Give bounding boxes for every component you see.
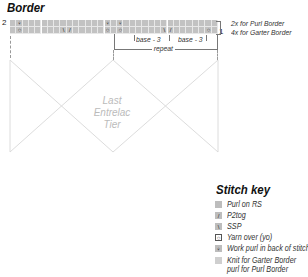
stitch-key-label: Yarn over (yo) xyxy=(227,233,272,242)
stitch-key-item: /P2tog xyxy=(215,211,249,220)
ssp-icon: \ xyxy=(215,223,222,230)
stitch-key-item: ○Yarn over (yo) xyxy=(215,233,280,242)
stitch-key-item: \SSP xyxy=(215,222,244,231)
stitch-key-label: Work purl in back of stitch xyxy=(227,244,308,253)
stitch-key-label: P2tog xyxy=(227,211,246,220)
last-entrelac-tier-label: Last Entrelac Tier xyxy=(72,95,152,131)
stitch-key-label: Knit for Garter Borderpurl for Purl Bord… xyxy=(227,256,296,274)
stitch-key-item: ♀Work purl in back of stitch xyxy=(215,244,308,253)
stitch-key-label: Purl on RS xyxy=(227,200,262,209)
stitch-key-label: SSP xyxy=(227,222,241,231)
purl-square-icon xyxy=(215,201,222,208)
garter-purl-icon xyxy=(215,257,222,264)
stitch-key-item: Knit for Garter Borderpurl for Purl Bord… xyxy=(215,256,308,274)
yarn-over-icon: ○ xyxy=(215,234,222,241)
p2tog-icon: / xyxy=(215,212,222,219)
purl-tbl-icon: ♀ xyxy=(215,245,222,252)
stitch-key-title: Stitch key xyxy=(216,182,270,197)
stitch-key-item: Purl on RS xyxy=(215,200,268,209)
